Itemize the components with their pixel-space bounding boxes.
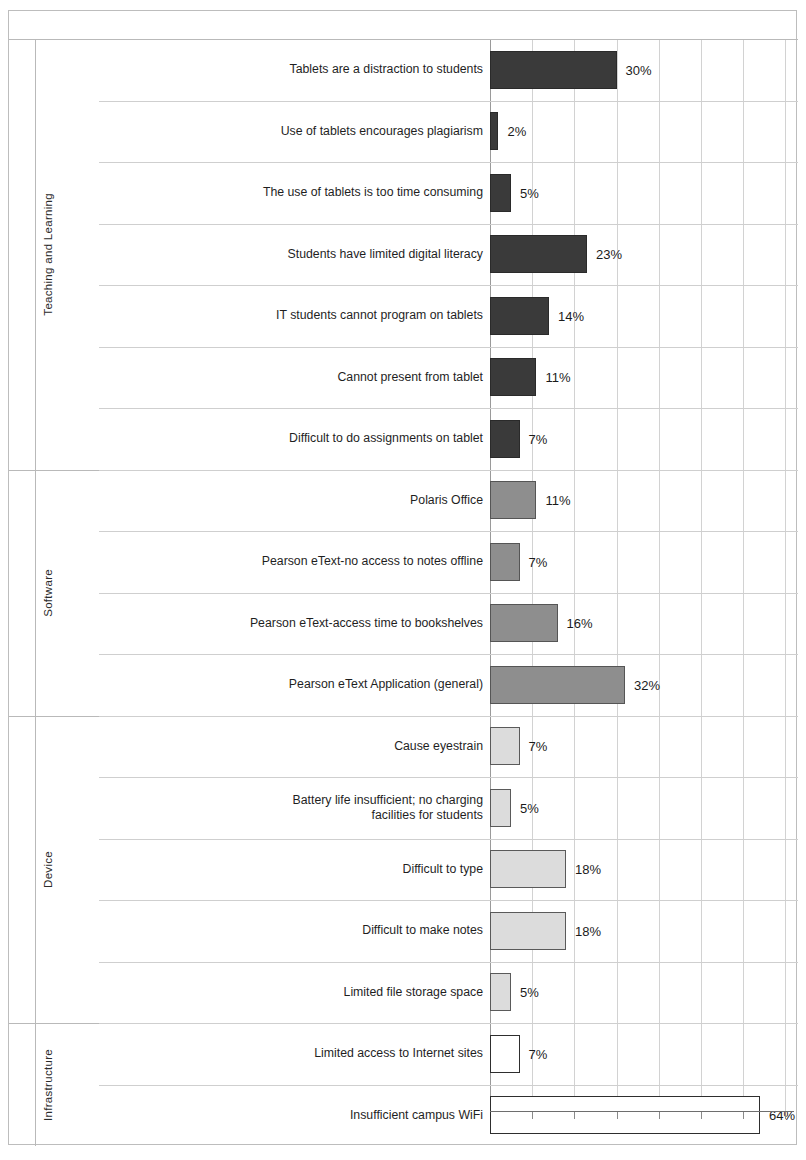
bar bbox=[490, 543, 520, 581]
bar-row: Difficult to type bbox=[61, 839, 798, 901]
bar-row: Pearson eText-access time to bookshelves bbox=[61, 593, 798, 655]
bar-value-label: 5% bbox=[520, 985, 539, 1000]
bar-value-label: 7% bbox=[529, 739, 548, 754]
bar-label: Limited file storage space bbox=[54, 962, 490, 1024]
axis-tick-10 bbox=[532, 1112, 533, 1119]
bar-row: Cause eyestrain bbox=[61, 716, 798, 778]
bar bbox=[490, 1035, 520, 1073]
category-label-separator bbox=[35, 716, 36, 1024]
bar bbox=[490, 112, 498, 150]
bar-row: Limited file storage space bbox=[61, 962, 798, 1024]
category-axis-label-text: Infrastructure bbox=[42, 1049, 54, 1121]
bar bbox=[490, 297, 549, 335]
bar-value-label: 18% bbox=[575, 862, 601, 877]
bar bbox=[490, 174, 511, 212]
bar-label: Polaris Office bbox=[54, 470, 490, 532]
bar-row: Difficult to make notes bbox=[61, 900, 798, 962]
bar-chart-plot: Teaching and LearningTablets are a distr… bbox=[9, 11, 798, 1146]
category-axis-label-text: Software bbox=[42, 569, 54, 617]
bar bbox=[490, 666, 625, 704]
category-label-separator bbox=[35, 39, 36, 470]
bar-row: Limited access to Internet sites bbox=[61, 1023, 798, 1085]
axis-tick-60 bbox=[743, 1112, 744, 1119]
bar bbox=[490, 420, 520, 458]
bar bbox=[490, 973, 511, 1011]
bar-row: The use of tablets is too time consuming bbox=[61, 162, 798, 224]
bar bbox=[490, 51, 617, 89]
category-label-separator bbox=[35, 1023, 36, 1146]
axis-tick-40 bbox=[659, 1112, 660, 1119]
bar-label: Cannot present from tablet bbox=[54, 347, 490, 409]
bar bbox=[490, 235, 587, 273]
bar-label: Students have limited digital literacy bbox=[54, 224, 490, 286]
bar-row: IT students cannot program on tablets bbox=[61, 285, 798, 347]
chart-frame: Teaching and LearningTablets are a distr… bbox=[8, 10, 797, 1145]
bar-label: Pearson eText-access time to bookshelves bbox=[54, 593, 490, 655]
bar bbox=[490, 850, 566, 888]
bar-label: IT students cannot program on tablets bbox=[54, 285, 490, 347]
category-label-separator bbox=[35, 470, 36, 716]
bar-value-label: 2% bbox=[507, 124, 526, 139]
bar-value-label: 64% bbox=[769, 1108, 795, 1123]
bar-label: Insufficient campus WiFi bbox=[54, 1085, 490, 1147]
bar bbox=[490, 912, 566, 950]
bar bbox=[490, 481, 536, 519]
bar-row: Pearson eText Application (general) bbox=[61, 654, 798, 716]
bar-value-label: 11% bbox=[545, 493, 570, 508]
bar bbox=[490, 727, 520, 765]
bar-row: Cannot present from tablet bbox=[61, 347, 798, 409]
category-axis-label-text: Teaching and Learning bbox=[42, 193, 54, 316]
bar-label: Pearson eText Application (general) bbox=[54, 654, 490, 716]
bar-value-label: 7% bbox=[529, 431, 548, 446]
bar-label: Difficult to type bbox=[54, 839, 490, 901]
bar-value-label: 5% bbox=[520, 800, 539, 815]
bar-label: Difficult to make notes bbox=[54, 900, 490, 962]
bar-label: The use of tablets is too time consuming bbox=[54, 162, 490, 224]
bar-label: Difficult to do assignments on tablet bbox=[54, 408, 490, 470]
bar bbox=[490, 789, 511, 827]
bar-row: Battery life insufficient; no charging f… bbox=[61, 777, 798, 839]
bar-label: Limited access to Internet sites bbox=[54, 1023, 490, 1085]
category-axis-label-text: Device bbox=[42, 851, 54, 888]
bar-value-label: 11% bbox=[545, 370, 570, 385]
bar-value-label: 16% bbox=[567, 616, 593, 631]
bar-value-label: 7% bbox=[529, 554, 548, 569]
axis-tick-50 bbox=[701, 1112, 702, 1119]
bar-row: Difficult to do assignments on tablet bbox=[61, 408, 798, 470]
bar-label: Use of tablets encourages plagiarism bbox=[54, 101, 490, 163]
bar-row: Students have limited digital literacy bbox=[61, 224, 798, 286]
bar-value-label: 14% bbox=[558, 308, 584, 323]
value-axis bbox=[490, 1111, 794, 1112]
axis-tick-30 bbox=[617, 1112, 618, 1119]
bar-value-label: 32% bbox=[634, 677, 660, 692]
bar-value-label: 23% bbox=[596, 247, 622, 262]
axis-tick-70 bbox=[785, 1112, 786, 1119]
axis-tick-20 bbox=[574, 1112, 575, 1119]
bar-row: Tablets are a distraction to students bbox=[61, 39, 798, 101]
bar-value-label: 18% bbox=[575, 923, 601, 938]
bar-value-label: 30% bbox=[626, 62, 652, 77]
bar-label: Tablets are a distraction to students bbox=[54, 39, 490, 101]
bar-row: Pearson eText-no access to notes offline bbox=[61, 531, 798, 593]
bar bbox=[490, 604, 558, 642]
bar bbox=[490, 1096, 760, 1134]
bar-row: Use of tablets encourages plagiarism bbox=[61, 101, 798, 163]
bar bbox=[490, 358, 536, 396]
bar-value-label: 7% bbox=[529, 1046, 548, 1061]
bar-row: Polaris Office bbox=[61, 470, 798, 532]
bar-label: Battery life insufficient; no charging f… bbox=[54, 777, 490, 839]
bar-label: Pearson eText-no access to notes offline bbox=[54, 531, 490, 593]
bar-label: Cause eyestrain bbox=[54, 716, 490, 778]
bar-value-label: 5% bbox=[520, 185, 539, 200]
